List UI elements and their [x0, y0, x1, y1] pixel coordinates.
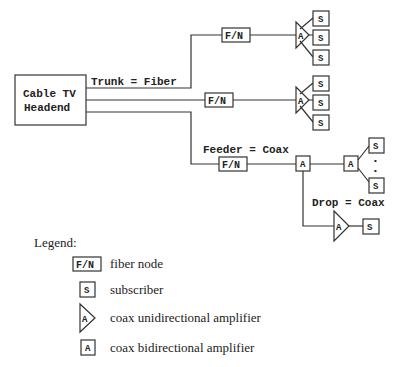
svg-text:A: A: [82, 315, 88, 325]
svg-text:A: A: [348, 160, 354, 170]
svg-text:S: S: [84, 286, 90, 296]
branch-bottom: F/N A A S • • S A S: [86, 112, 384, 241]
svg-text:S: S: [373, 182, 379, 192]
svg-text:F/N: F/N: [225, 31, 243, 42]
svg-text:S: S: [373, 142, 379, 152]
headend-label-line2: Headend: [24, 102, 70, 114]
trunk-label: Trunk = Fiber: [91, 76, 177, 88]
ellipsis-dot: •: [373, 166, 378, 175]
headend-label-line1: Cable TV: [23, 88, 76, 100]
legend-title: Legend:: [34, 235, 77, 250]
svg-text:S: S: [367, 223, 373, 233]
svg-text:F/N: F/N: [208, 96, 226, 107]
feeder-label: Feeder = Coax: [203, 144, 289, 156]
svg-text:A: A: [336, 223, 342, 233]
headend-box: Cable TV Headend: [15, 75, 86, 125]
svg-text:A: A: [298, 32, 304, 42]
drop-label: Drop = Coax: [312, 197, 385, 209]
legend: Legend: F/N fiber node S subscriber A co…: [34, 235, 262, 355]
svg-text:F/N: F/N: [222, 160, 240, 171]
svg-text:A: A: [300, 160, 306, 170]
svg-text:S: S: [318, 119, 324, 129]
svg-text:S: S: [318, 99, 324, 109]
svg-text:S: S: [318, 80, 324, 90]
svg-text:S: S: [318, 34, 324, 44]
legend-item-label: coax unidirectional amplifier: [110, 310, 262, 325]
svg-text:S: S: [318, 54, 324, 64]
svg-text:S: S: [318, 15, 324, 25]
ellipsis-dot: •: [373, 156, 378, 165]
svg-text:A: A: [85, 344, 91, 354]
legend-item-label: coax bidirectional amplifier: [110, 340, 255, 355]
svg-text:A: A: [298, 97, 304, 107]
svg-text:F/N: F/N: [76, 260, 94, 271]
legend-item-label: subscriber: [110, 282, 164, 297]
cable-network-diagram: Cable TV Headend Trunk = Fiber F/N A S S…: [0, 0, 397, 367]
legend-item-label: fiber node: [110, 256, 163, 271]
